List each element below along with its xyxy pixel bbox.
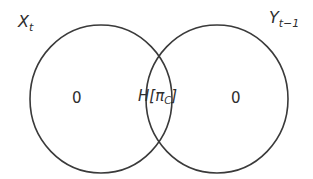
region-x-only-value: 0 [72, 91, 82, 106]
set-x-label-main: X [18, 12, 29, 31]
region-y-only-value: 0 [231, 91, 241, 106]
set-y-label: Yt−1 [269, 10, 299, 29]
venn-diagram: Xt Yt−1 0 H[πC] 0 [0, 0, 313, 179]
intersection-suffix: ] [171, 87, 177, 105]
set-x-label-sub: t [29, 21, 33, 34]
set-y-label-main: Y [269, 8, 279, 27]
set-x-label: Xt [18, 14, 33, 33]
region-intersection-value: H[πC] [138, 89, 177, 106]
set-y-label-sub: t−1 [279, 17, 300, 30]
intersection-prefix: H[π [138, 87, 164, 105]
